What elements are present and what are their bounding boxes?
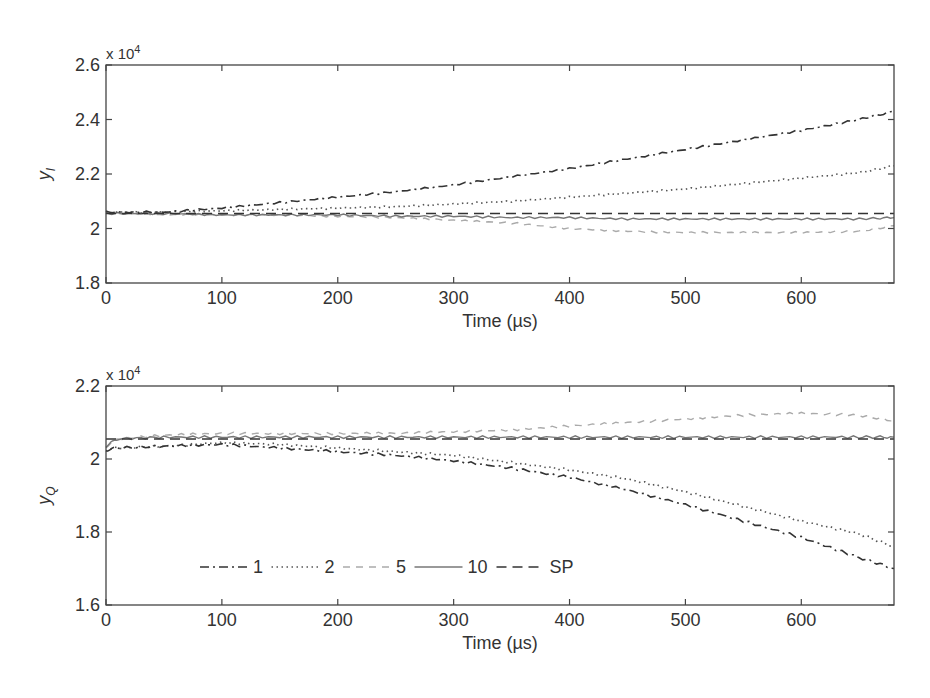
plot-frame [106,65,894,283]
x-tick-label: 0 [101,610,111,630]
legend: 12510SP [200,557,574,577]
x-tick-label: 600 [786,288,816,308]
y-tick-label: 1.8 [75,522,100,542]
x-tick-label: 500 [670,610,700,630]
series-group [106,111,894,233]
y-tick-label: 2.2 [75,164,100,184]
chart-figure: 01002003004005006001.822.22.42.6x 104Tim… [0,0,930,698]
y-axis-title: yQ [34,486,58,506]
legend-label: 2 [325,557,335,577]
x-tick-label: 300 [439,610,469,630]
y-tick-label: 2 [90,219,100,239]
x-axis-title: Time (µs) [462,311,538,331]
series-line-1 [106,111,894,213]
y-tick-label: 2.4 [75,110,100,130]
top-panel-yI: 01002003004005006001.822.22.42.6x 104Tim… [34,43,894,331]
x-tick-label: 300 [439,288,469,308]
legend-label: 1 [253,557,263,577]
series-line-1 [106,444,894,569]
x-tick-label: 400 [555,288,585,308]
legend-item-sp: SP [497,557,574,577]
legend-item-1: 1 [200,557,263,577]
x-tick-label: 100 [207,610,237,630]
series-line-5 [106,213,894,234]
y-axis-title: yI [34,167,58,182]
legend-item-10: 10 [415,557,488,577]
series-line-2 [106,166,894,213]
y-tick-label: 2 [90,449,100,469]
x-tick-label: 100 [207,288,237,308]
y-axis-multiplier: x 104 [106,364,140,383]
y-tick-label: 2.2 [75,376,100,396]
x-tick-label: 0 [101,288,111,308]
series-line-10 [106,436,894,448]
series-group [106,412,894,568]
y-tick-label: 1.6 [75,595,100,615]
x-tick-label: 500 [670,288,700,308]
x-tick-label: 200 [323,610,353,630]
legend-label: SP [550,557,574,577]
legend-item-5: 5 [343,557,406,577]
y-tick-label: 2.6 [75,55,100,75]
x-axis-title: Time (µs) [462,633,538,653]
plot-frame [106,386,894,605]
legend-item-2: 2 [272,557,335,577]
y-tick-label: 1.8 [75,273,100,293]
legend-label: 10 [468,557,488,577]
series-line-5 [106,412,894,447]
x-tick-label: 600 [786,610,816,630]
y-axis-multiplier: x 104 [106,43,140,62]
x-tick-label: 400 [555,610,585,630]
series-line-2 [106,442,894,547]
legend-label: 5 [396,557,406,577]
x-tick-label: 200 [323,288,353,308]
bottom-panel-yQ: 01002003004005006001.61.822.2x 104Time (… [34,364,894,653]
